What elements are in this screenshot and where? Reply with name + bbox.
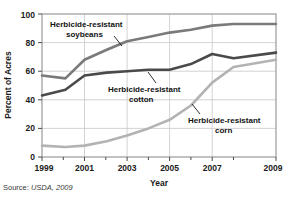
source-prefix: Source:	[3, 183, 29, 192]
corn-label-line1: Herbicide-resistant	[188, 116, 261, 125]
cotton-label-line2: cotton	[129, 95, 154, 104]
x-tick-label-1999: 1999	[35, 163, 54, 173]
y-tick-label-40: 40	[26, 95, 36, 105]
y-tick-label-80: 80	[26, 38, 36, 48]
x-tick-label-2001: 2001	[75, 163, 94, 173]
y-axis-title: Percent of Acres	[3, 51, 13, 119]
x-axis-ticks	[42, 157, 276, 161]
x-tick-label-2003: 2003	[118, 163, 137, 173]
x-tick-label-2009: 2009	[264, 163, 283, 173]
cotton-label-line1: Herbicide-resistant	[108, 85, 181, 94]
y-tick-label-0: 0	[30, 152, 35, 162]
y-tick-label-20: 20	[26, 123, 36, 133]
corn-label-line2: corn	[215, 126, 232, 135]
y-tick-label-100: 100	[21, 10, 35, 20]
source-caption: Source: USDA, 2009	[3, 183, 73, 192]
soybeans-label-line1: Herbicide-resistant	[50, 20, 123, 29]
source-citation: USDA, 2009	[31, 183, 73, 192]
soybeans-label-line2: soybeans	[66, 30, 103, 39]
x-tick-label-2005: 2005	[160, 163, 179, 173]
top-blank-band	[0, 0, 289, 7]
line-chart: 0 20 40 60 80 100 1999 2001 2003 2005 20…	[0, 0, 289, 200]
x-axis-title: Year	[150, 178, 169, 188]
x-tick-label-2007: 2007	[203, 163, 222, 173]
y-tick-label-60: 60	[26, 66, 36, 76]
chart-figure: 0 20 40 60 80 100 1999 2001 2003 2005 20…	[0, 0, 289, 200]
